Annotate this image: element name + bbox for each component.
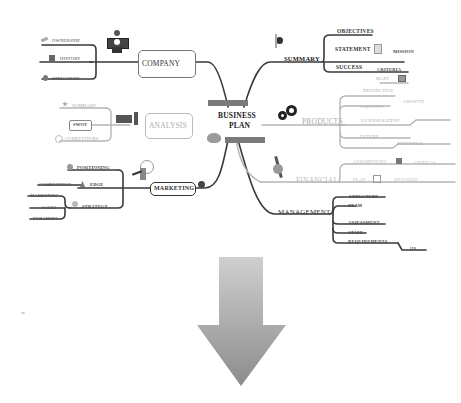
node-team[interactable]: TEAM: [348, 203, 362, 208]
node-positioning[interactable]: POSITIONING: [77, 165, 110, 170]
sundial-figure-icon: [275, 34, 283, 48]
center-bar-top: [208, 100, 248, 106]
node-potential[interactable]: POTENTIAL: [397, 141, 424, 146]
node-marketing[interactable]: MARKETING: [154, 185, 194, 191]
node-mission[interactable]: MISSION: [393, 49, 414, 54]
node-products[interactable]: PRODUCTS: [302, 117, 343, 126]
node-criteria[interactable]: CRITERIA: [377, 67, 401, 72]
node-competitors[interactable]: COMPETITORS: [65, 136, 98, 141]
node-pyramids[interactable]: PYRAMIDS: [33, 216, 58, 221]
node-growth[interactable]: GROWTH: [403, 99, 424, 104]
node-critical[interactable]: CRITICAL: [414, 160, 436, 165]
mouse-icon: [207, 133, 221, 143]
presentation-icon: [373, 175, 381, 183]
building-icon: [374, 44, 382, 54]
node-analysis[interactable]: ANALYSIS: [149, 121, 187, 130]
node-main[interactable]: MAIN: [376, 76, 389, 81]
monitor-icon: [398, 75, 406, 82]
gears-icon: [278, 105, 300, 123]
competitors-icon: [55, 135, 63, 143]
target-icon: [72, 201, 78, 207]
node-sales[interactable]: SALES: [42, 205, 57, 210]
node-marketing-sub[interactable]: MARKETING: [30, 193, 59, 198]
node-detailed[interactable]: DETAILED: [394, 177, 417, 182]
node-requirements[interactable]: REQUIREMENTS: [348, 239, 387, 244]
money-figure-icon: [107, 30, 127, 54]
center-title-line2: PLAN: [229, 121, 250, 130]
node-financial[interactable]: FINANCIAL: [296, 176, 338, 185]
sun-icon: [67, 164, 73, 170]
node-ownership[interactable]: OWNERSHIP: [52, 38, 80, 43]
node-history[interactable]: HISTORY: [60, 56, 81, 61]
globe-icon: [43, 75, 48, 81]
chart-figure-icon: [116, 112, 140, 126]
node-competitive[interactable]: COMPETITIVE: [39, 182, 71, 187]
node-distinctive[interactable]: DISTINCTIVE: [363, 88, 393, 93]
node-staff[interactable]: STAFF: [348, 230, 363, 235]
node-swot[interactable]: SWOT: [73, 122, 87, 127]
arrow-down-icon: [197, 257, 286, 386]
tree-figure-icon: [273, 156, 287, 180]
node-objectives[interactable]: OBJECTIVES: [337, 28, 374, 34]
node-strategy[interactable]: STRATEGY: [82, 204, 108, 209]
center-bar-bottom: [225, 137, 265, 143]
megaphone-figure-icon: [132, 160, 154, 182]
node-plan[interactable]: PLAN: [353, 177, 366, 182]
node-capacity[interactable]: CAPACITY: [360, 104, 384, 109]
node-license-patent[interactable]: LICENSE/PATENT: [361, 118, 400, 123]
node-mgmt-structure[interactable]: STRUCTURE: [349, 194, 379, 199]
node-assumptions[interactable]: ASSUMPTIONS: [353, 159, 386, 164]
center-title-line1: BUSINESS: [218, 111, 256, 120]
node-edge[interactable]: EDGE: [90, 182, 104, 187]
calendar-icon: [49, 55, 55, 61]
node-future[interactable]: FUTURE: [360, 134, 379, 139]
node-hr[interactable]: HR: [410, 246, 417, 251]
cluster-icon: [198, 181, 205, 188]
node-success[interactable]: SUCCESS: [336, 64, 362, 70]
document-icon: [396, 158, 402, 164]
node-statement[interactable]: STATEMENT: [335, 46, 371, 52]
node-assessment[interactable]: ASSESSMENT: [348, 220, 380, 225]
node-structure-company[interactable]: STRUCTURE: [52, 76, 80, 81]
node-company[interactable]: COMPANY: [142, 59, 180, 68]
node-summary[interactable]: SUMMARY: [284, 55, 320, 62]
node-management[interactable]: MANAGEMENT: [278, 208, 331, 216]
node-analysis-summary[interactable]: SUMMARY: [72, 103, 96, 108]
